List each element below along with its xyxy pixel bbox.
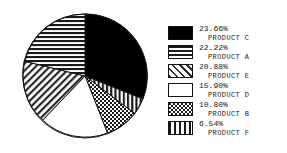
legend-label: PRODUCT B bbox=[199, 110, 249, 118]
blank-white-swatch bbox=[168, 83, 193, 97]
legend-item-text: 10.80% PRODUCT B bbox=[199, 101, 249, 118]
legend-item-product-e[interactable]: 20.88% PRODUCT E bbox=[168, 63, 287, 82]
legend-label: PRODUCT A bbox=[199, 53, 249, 61]
solid-black-swatch bbox=[168, 26, 193, 40]
legend-item-text: 6.54% PRODUCT F bbox=[199, 120, 249, 137]
legend-item-product-b[interactable]: 10.80% PRODUCT B bbox=[168, 101, 287, 120]
legend-label: PRODUCT F bbox=[199, 129, 249, 137]
legend-percent: 6.54% bbox=[199, 120, 249, 128]
legend-item-product-a[interactable]: 22.22% PRODUCT A bbox=[168, 44, 287, 63]
legend-item-product-d[interactable]: 15.90% PRODUCT D bbox=[168, 82, 287, 101]
legend-label: PRODUCT D bbox=[199, 91, 249, 99]
legend-item-text: 15.90% PRODUCT D bbox=[199, 82, 249, 99]
chart-legend: 23.66% PRODUCT C 22.22% PRODUCT A 20.88%… bbox=[168, 0, 287, 153]
pie-svg bbox=[22, 8, 148, 144]
horizontal-lines-swatch bbox=[168, 45, 193, 59]
legend-item-text: 22.22% PRODUCT A bbox=[199, 44, 249, 61]
legend-percent: 23.66% bbox=[199, 25, 249, 33]
legend-label: PRODUCT E bbox=[199, 72, 249, 80]
legend-label: PRODUCT C bbox=[199, 34, 249, 42]
legend-percent: 10.80% bbox=[199, 101, 249, 109]
legend-percent: 20.88% bbox=[199, 63, 249, 71]
legend-item-product-f[interactable]: 6.54% PRODUCT F bbox=[168, 120, 287, 139]
legend-item-text: 20.88% PRODUCT E bbox=[199, 63, 249, 80]
pie-plot-area bbox=[0, 0, 168, 153]
legend-percent: 15.90% bbox=[199, 82, 249, 90]
pie-chart-figure: 23.66% PRODUCT C 22.22% PRODUCT A 20.88%… bbox=[0, 0, 287, 153]
vertical-lines-swatch bbox=[168, 121, 193, 135]
diagonal-hatch-swatch bbox=[168, 64, 193, 78]
legend-item-text: 23.66% PRODUCT C bbox=[199, 25, 249, 42]
legend-item-product-c[interactable]: 23.66% PRODUCT C bbox=[168, 25, 287, 44]
checkerboard-swatch bbox=[168, 102, 193, 116]
legend-percent: 22.22% bbox=[199, 44, 249, 52]
